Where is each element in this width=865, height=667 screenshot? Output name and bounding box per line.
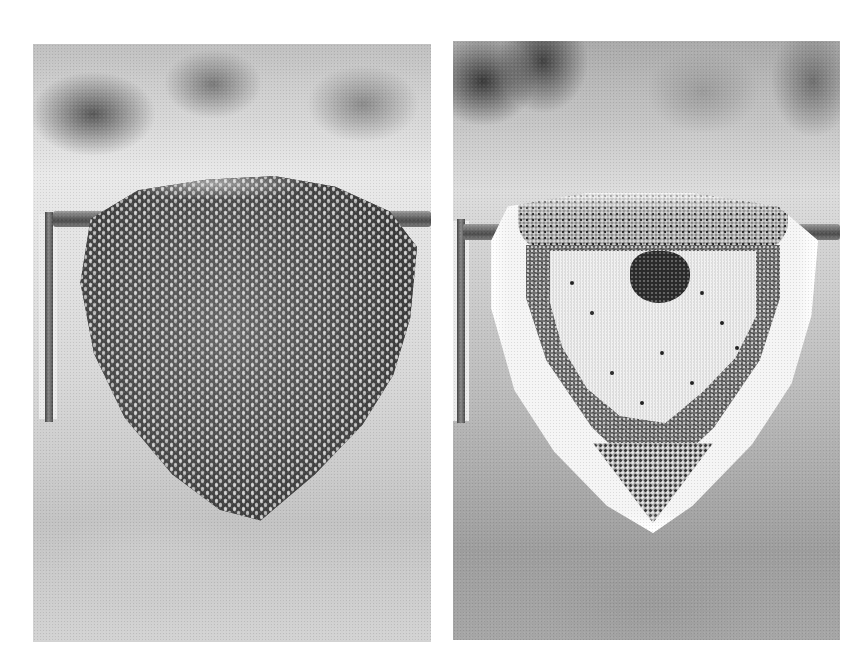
- comb-rim-highlight: [488, 193, 818, 533]
- photo-honeycomb: [453, 41, 840, 640]
- bee-swarm-cluster: [77, 169, 417, 524]
- stake-post: [45, 212, 53, 422]
- photo-bee-swarm: [33, 44, 431, 642]
- honeycomb: [488, 193, 818, 533]
- stake-post: [457, 219, 465, 423]
